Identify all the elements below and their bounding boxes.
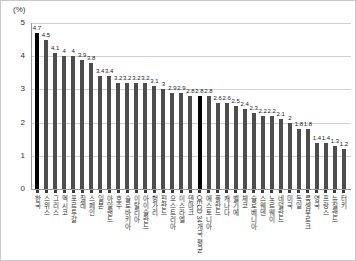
bar — [116, 83, 120, 189]
x-axis-tick — [45, 190, 48, 193]
bar-value-label: 4 — [62, 48, 65, 54]
bar-value-label: 2 — [288, 115, 291, 121]
x-axis-tick — [324, 190, 327, 193]
y-tick-label: 1 — [11, 152, 25, 160]
bar — [234, 106, 238, 189]
x-axis-tick — [216, 190, 219, 193]
y-tick-label: 3 — [11, 85, 25, 93]
bar — [170, 93, 174, 189]
bar — [89, 63, 93, 189]
bar — [71, 56, 75, 189]
x-axis-category-label: 오스트리아 — [169, 195, 176, 230]
bar-value-label: 4.5 — [42, 32, 50, 38]
x-axis-tick — [261, 190, 264, 193]
x-axis-category-label: 캐나다 — [223, 195, 230, 216]
x-axis-category-label: 체코 — [241, 195, 248, 209]
bar-value-label: 3.8 — [87, 55, 95, 61]
bar — [98, 76, 102, 189]
x-axis-tick — [99, 190, 102, 193]
x-axis-tick — [288, 190, 291, 193]
bar-value-label: 4.1 — [51, 45, 59, 51]
bar — [80, 60, 84, 189]
bar-value-label: 2.9 — [177, 85, 185, 91]
y-axis-line — [31, 23, 32, 189]
x-axis-category-label: 슬로바키아 — [124, 195, 131, 230]
bar-value-label: 3.4 — [105, 68, 113, 74]
x-axis-category-label: 독일 — [295, 195, 302, 209]
bar-value-label: 1.3 — [331, 138, 339, 144]
x-axis-tick — [243, 190, 246, 193]
y-tick-label: 0 — [11, 185, 25, 193]
bar-value-label: 2.8 — [204, 88, 212, 94]
x-axis-tick — [162, 190, 165, 193]
x-axis-tick — [117, 190, 120, 193]
x-axis-category-label: 한국 — [34, 195, 41, 209]
bar — [252, 113, 256, 189]
x-axis-category-label: 네덜란드 — [277, 195, 284, 223]
x-axis-category-label: 칠레 — [79, 195, 86, 209]
x-axis-tick — [153, 190, 156, 193]
bar — [297, 129, 301, 189]
x-axis-tick — [72, 190, 75, 193]
x-axis-tick — [180, 190, 183, 193]
x-axis-tick — [36, 190, 39, 193]
bar — [216, 103, 220, 189]
x-axis-category-label: 폴란드 — [214, 195, 221, 216]
bar — [333, 146, 337, 189]
bar-value-label: 4 — [71, 48, 74, 54]
x-axis-category-label: 아일랜드 — [106, 195, 113, 223]
bar-value-label: 1.4 — [313, 135, 321, 141]
x-axis-tick — [126, 190, 129, 193]
x-axis-category-label: 프랑스 — [322, 195, 329, 216]
bar — [225, 103, 229, 189]
bar — [288, 123, 292, 189]
bar — [107, 76, 111, 189]
x-axis-category-label: 터키 — [340, 195, 347, 209]
x-axis-category-label: 덴마크 — [187, 195, 194, 216]
bar-value-label: 1.8 — [304, 121, 312, 127]
x-axis-tick — [252, 190, 255, 193]
x-axis-category-label: 멕시코 — [61, 195, 68, 216]
bar-value-label: 2.8 — [195, 88, 203, 94]
x-axis-category-label: OECD 34개국 평균 — [196, 195, 203, 253]
bar — [53, 53, 57, 189]
bar-highlighted — [35, 33, 39, 189]
bar-value-label: 2.6 — [213, 95, 221, 101]
bar-value-label: 3.2 — [141, 75, 149, 81]
x-axis-tick — [315, 190, 318, 193]
x-axis-tick — [297, 190, 300, 193]
y-tick-label: 2 — [11, 119, 25, 127]
x-axis-category-label: 포르투갈 — [70, 195, 77, 223]
bar — [207, 96, 211, 189]
bar-value-label: 3.2 — [123, 75, 131, 81]
x-axis-category-label: 슬로베니아 — [250, 195, 257, 230]
y-tick-label: 5 — [11, 19, 25, 27]
x-axis-tick — [234, 190, 237, 193]
x-axis-category-label: 에스토니아 — [205, 195, 212, 230]
x-axis-tick — [81, 190, 84, 193]
y-tick-label: 4 — [11, 52, 25, 60]
bar-value-label: 1.8 — [295, 121, 303, 127]
bar-value-label: 3.2 — [132, 75, 140, 81]
bar-value-label: 3 — [162, 81, 165, 87]
x-axis-category-label: 일본 — [97, 195, 104, 209]
x-axis-category-label: 이탈리아 — [133, 195, 140, 223]
x-axis-tick — [63, 190, 66, 193]
bar-value-label: 2.8 — [186, 88, 194, 94]
bar — [306, 129, 310, 189]
x-axis-category-label: 그리스 — [52, 195, 59, 216]
bar-value-label: 1.4 — [322, 135, 330, 141]
bar — [270, 116, 274, 189]
x-axis-category-label: 벨기에 — [232, 195, 239, 216]
gridline — [31, 23, 351, 24]
x-axis-tick — [54, 190, 57, 193]
bar — [179, 93, 183, 189]
bar-value-label: 1.2 — [340, 141, 348, 147]
bar — [161, 89, 165, 189]
bar-value-label: 2.3 — [250, 105, 258, 111]
bar — [261, 116, 265, 189]
bar — [324, 143, 328, 189]
bar-value-label: 3.9 — [78, 52, 86, 58]
x-axis-category-label: 이스라엘 — [178, 195, 185, 223]
bar-value-label: 4.7 — [33, 25, 41, 31]
